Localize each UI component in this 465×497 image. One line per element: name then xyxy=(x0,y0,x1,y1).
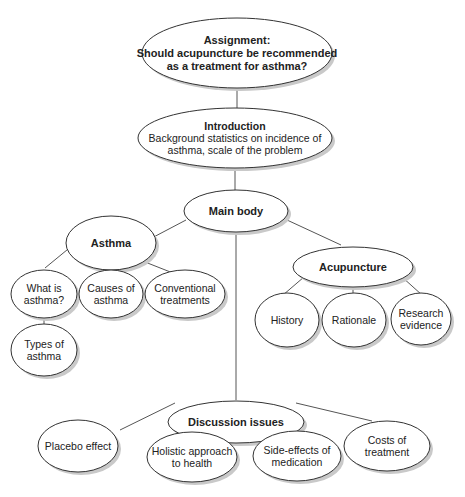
label-types-of-asthma: Types of asthma xyxy=(24,338,64,362)
label-introduction: Introduction Background statistics on in… xyxy=(149,120,322,156)
label-conventional-treatments: Conventional treatments xyxy=(154,282,215,306)
assignment-line-2: as a treatment for asthma? xyxy=(137,60,337,73)
types-line-1: Types of xyxy=(24,338,64,350)
label-history: History xyxy=(271,314,304,326)
label-asthma: Asthma xyxy=(91,237,131,250)
side-effects-line-2: medication xyxy=(264,456,331,468)
types-line-2: asthma xyxy=(24,350,64,362)
holistic-line-2: to health xyxy=(152,457,233,469)
assignment-line-1: Should acupuncture be recommended xyxy=(137,47,337,60)
label-acupuncture: Acupuncture xyxy=(319,261,387,274)
research-line-1: Research xyxy=(399,307,444,319)
introduction-line-1: Background statistics on incidence of xyxy=(149,132,322,144)
costs-line-2: treatment xyxy=(365,446,409,458)
label-main-body: Main body xyxy=(209,205,263,218)
label-discussion-issues: Discussion issues xyxy=(188,416,284,429)
causes-line-1: Causes of xyxy=(87,282,134,294)
causes-line-2: asthma xyxy=(87,294,134,306)
conventional-line-1: Conventional xyxy=(154,282,215,294)
what-is-asthma-line-1: What is xyxy=(24,282,64,294)
label-assignment: Assignment: Should acupuncture be recomm… xyxy=(137,34,337,73)
label-placebo-effect: Placebo effect xyxy=(45,440,111,452)
assignment-title: Assignment: xyxy=(137,34,337,47)
label-costs-of-treatment: Costs of treatment xyxy=(365,434,409,458)
introduction-line-2: asthma, scale of the problem xyxy=(149,144,322,156)
introduction-title: Introduction xyxy=(149,120,322,132)
conventional-line-2: treatments xyxy=(154,294,215,306)
label-causes-of-asthma: Causes of asthma xyxy=(87,282,134,306)
research-line-2: evidence xyxy=(399,319,444,331)
label-research-evidence: Research evidence xyxy=(399,307,444,331)
what-is-asthma-line-2: asthma? xyxy=(24,294,64,306)
label-rationale: Rationale xyxy=(332,314,376,326)
label-side-effects: Side-effects of medication xyxy=(264,444,331,468)
costs-line-1: Costs of xyxy=(365,434,409,446)
side-effects-line-1: Side-effects of xyxy=(264,444,331,456)
holistic-line-1: Holistic approach xyxy=(152,445,233,457)
label-holistic-approach: Holistic approach to health xyxy=(152,445,233,469)
label-what-is-asthma: What is asthma? xyxy=(24,282,64,306)
